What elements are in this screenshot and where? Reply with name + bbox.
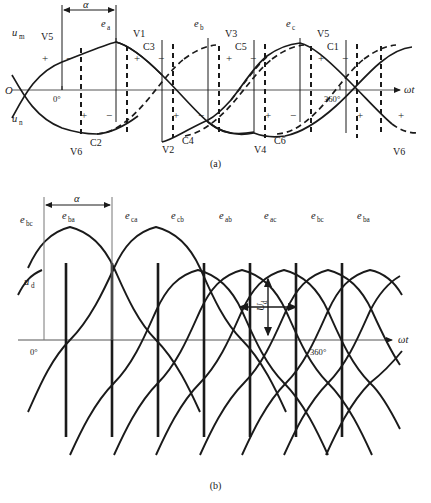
svg-text:cb: cb: [177, 216, 184, 224]
svg-text:+: +: [173, 109, 179, 121]
polarity-marks-lower-a: + − + − + − + +: [81, 109, 404, 121]
svg-text:+: +: [398, 109, 404, 121]
svg-text:−: −: [66, 52, 72, 64]
svg-text:e: e: [101, 18, 106, 29]
svg-text:m: m: [19, 33, 25, 41]
svg-text:ba: ba: [68, 216, 76, 224]
line-voltage-label-2: e ca: [125, 210, 138, 224]
axis-x-label-b: ωt: [398, 334, 409, 345]
commutation-label-lower-0: C2: [90, 137, 102, 148]
phase-label-ea: e a: [101, 18, 111, 32]
svg-text:e: e: [219, 210, 224, 221]
svg-text:bc: bc: [26, 220, 33, 228]
tick-label-0-a: 0°: [53, 94, 61, 104]
svg-text:u: u: [12, 113, 17, 124]
caption-b: (b): [0, 480, 431, 491]
svg-text:e: e: [264, 210, 269, 221]
svg-text:e: e: [194, 18, 199, 29]
envelope-label-um: u m: [12, 27, 25, 41]
svg-text:−: −: [106, 109, 112, 121]
device-label-upper-2: V3: [225, 28, 237, 39]
tick-label-0-b: 0°: [30, 347, 38, 357]
line-voltage-label-5: e ac: [264, 210, 276, 224]
line-voltage-label-1: e ba: [62, 210, 76, 224]
polarity-marks-upper-a: + − + − + − + −: [42, 52, 348, 64]
svg-text:+: +: [265, 109, 271, 121]
device-label-lower-2: V4: [254, 144, 266, 155]
svg-text:e: e: [286, 18, 291, 29]
figure-a: ωt O 0° 360°: [0, 0, 431, 175]
envelope-label-un: u n: [12, 113, 23, 127]
svg-text:u: u: [24, 276, 29, 287]
svg-text:−: −: [198, 109, 204, 121]
device-label-upper-0: V5: [41, 31, 53, 42]
device-label-upper-3: V5: [317, 28, 329, 39]
svg-text:+: +: [81, 109, 87, 121]
alpha-label-b: α: [74, 193, 80, 204]
svg-text:b: b: [200, 24, 204, 32]
svg-text:−: −: [342, 52, 348, 64]
svg-text:ba: ba: [363, 216, 371, 224]
line-voltage-label-7: e ba: [357, 210, 371, 224]
svg-text:ac: ac: [270, 216, 276, 224]
device-label-lower-3: V6: [393, 146, 405, 157]
mean-voltage-label: U d: [255, 300, 269, 311]
line-voltage-label-3: e cb: [171, 210, 184, 224]
svg-text:u: u: [12, 27, 17, 38]
line-voltage-label-4: e ab: [219, 210, 232, 224]
figure-b-svg: ωt 0° 360° α u d U d e: [0, 175, 431, 465]
svg-text:+: +: [226, 52, 232, 64]
svg-text:a: a: [107, 24, 111, 32]
line-voltage-label-0: e bc: [20, 214, 33, 228]
axis-origin-a: O: [5, 85, 13, 96]
svg-text:n: n: [19, 119, 23, 127]
device-label-lower-1: V2: [162, 144, 174, 155]
axis-x-label-a: ωt: [404, 84, 415, 95]
phase-label-eb: e b: [194, 18, 204, 32]
line-voltage-curves-b: [18, 227, 402, 455]
svg-text:d: d: [261, 300, 269, 304]
svg-text:+: +: [357, 109, 363, 121]
commutation-label-upper-1: C5: [235, 41, 247, 52]
svg-text:e: e: [125, 210, 130, 221]
commutation-edges-b: [66, 263, 342, 437]
svg-text:ab: ab: [225, 216, 232, 224]
svg-text:e: e: [171, 210, 176, 221]
line-voltage-label-6: e bc: [311, 210, 324, 224]
svg-text:−: −: [290, 109, 296, 121]
commutation-label-upper-0: C3: [143, 41, 155, 52]
svg-text:e: e: [20, 214, 25, 225]
svg-text:−: −: [250, 52, 256, 64]
svg-text:e: e: [357, 210, 362, 221]
figure-a-svg: ωt O 0° 360°: [0, 0, 431, 175]
device-label-lower-0: V6: [70, 146, 82, 157]
svg-text:+: +: [42, 52, 48, 64]
figure-b: ωt 0° 360° α u d U d e: [0, 175, 431, 503]
alpha-label-a: α: [83, 0, 89, 10]
svg-text:+: +: [318, 52, 324, 64]
svg-text:−: −: [158, 52, 164, 64]
phase-label-ec: e c: [286, 18, 295, 32]
svg-text:+: +: [134, 52, 140, 64]
svg-text:e: e: [62, 210, 67, 221]
tick-label-360-a: 360°: [324, 94, 341, 104]
caption-a: (a): [0, 158, 431, 169]
tick-label-360-b: 360°: [310, 347, 327, 357]
commutation-label-lower-1: C4: [182, 135, 194, 146]
device-label-upper-1: V1: [133, 28, 145, 39]
commutation-label-lower-2: C6: [274, 135, 286, 146]
svg-text:c: c: [292, 24, 295, 32]
commutation-label-upper-2: C1: [327, 41, 339, 52]
svg-text:d: d: [31, 282, 35, 290]
svg-text:ca: ca: [131, 216, 138, 224]
svg-text:e: e: [311, 210, 316, 221]
svg-text:bc: bc: [317, 216, 324, 224]
